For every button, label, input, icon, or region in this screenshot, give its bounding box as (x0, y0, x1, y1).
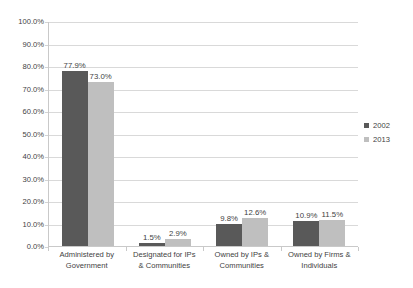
x-axis-category-line: Communities (204, 261, 280, 272)
bar-slot: 2.9% (165, 22, 191, 246)
y-axis-tick-label: 50.0% (0, 131, 44, 139)
x-axis-category-line: & Communities (127, 261, 203, 272)
x-axis-category-label: Owned by Firms &Individuals (281, 250, 359, 282)
x-axis-category-line: Administered by (49, 250, 125, 261)
bar-slot: 77.9% (62, 22, 88, 246)
bar-value-label: 12.6% (244, 208, 266, 217)
bar-value-label: 10.9% (295, 211, 317, 220)
bar-value-label: 77.9% (64, 61, 86, 70)
bar-value-label: 2.9% (169, 229, 187, 238)
legend-swatch-icon (364, 123, 369, 128)
bar-chart: 100.0%90.0%80.0%70.0%60.0%50.0%40.0%30.0… (0, 0, 413, 288)
bar-group: 77.9%73.0% (49, 22, 126, 246)
bar-group: 10.9%11.5% (281, 22, 358, 246)
y-axis-tick-label: 60.0% (0, 108, 44, 116)
x-axis-category-label: Administered byGovernment (48, 250, 126, 282)
x-axis-category-label: Designated for IPs& Communities (126, 250, 204, 282)
y-axis-tick-label: 40.0% (0, 153, 44, 161)
y-axis-tick-label: 0.0% (0, 243, 44, 251)
plot-area: 77.9%73.0%1.5%2.9%9.8%12.6%10.9%11.5% (48, 22, 358, 247)
bar-value-label: 11.5% (322, 210, 344, 219)
x-axis-category-line: Owned by IPs & (204, 250, 280, 261)
y-axis-tick-label: 80.0% (0, 63, 44, 71)
bar-slot: 11.5% (319, 22, 345, 246)
y-axis-tick-label: 70.0% (0, 86, 44, 94)
bar-slot: 10.9% (293, 22, 319, 246)
bar-group: 1.5%2.9% (126, 22, 203, 246)
y-axis-tick-label: 20.0% (0, 198, 44, 206)
legend-item-2002[interactable]: 2002 (364, 118, 413, 132)
bar[interactable] (293, 221, 319, 246)
x-axis-category-label: Owned by IPs &Communities (203, 250, 281, 282)
bar[interactable] (62, 71, 88, 246)
bar[interactable] (88, 82, 114, 246)
legend: 20022013 (364, 118, 413, 146)
legend-label: 2002 (373, 121, 390, 130)
bar-value-label: 73.0% (90, 72, 112, 81)
legend-swatch-icon (364, 137, 369, 142)
bar-group: 9.8%12.6% (204, 22, 281, 246)
bar-slot: 1.5% (139, 22, 165, 246)
x-axis-tick-mark (358, 247, 359, 251)
legend-label: 2013 (373, 135, 390, 144)
bar-slot: 12.6% (242, 22, 268, 246)
bar-value-label: 9.8% (220, 214, 238, 223)
y-axis-tick-label: 30.0% (0, 176, 44, 184)
y-axis: 100.0%90.0%80.0%70.0%60.0%50.0%40.0%30.0… (0, 22, 44, 247)
bar-groups: 77.9%73.0%1.5%2.9%9.8%12.6%10.9%11.5% (49, 22, 358, 246)
y-axis-tick-label: 90.0% (0, 41, 44, 49)
bar[interactable] (319, 220, 345, 246)
bar[interactable] (139, 243, 165, 246)
y-axis-tick-label: 100.0% (0, 18, 44, 26)
x-axis-category-line: Individuals (282, 261, 358, 272)
y-axis-tick-label: 10.0% (0, 221, 44, 229)
x-axis: Administered byGovernmentDesignated for … (48, 250, 358, 282)
bar[interactable] (242, 218, 268, 246)
bar-value-label: 1.5% (143, 233, 161, 242)
x-axis-category-line: Designated for IPs (127, 250, 203, 261)
x-axis-category-line: Owned by Firms & (282, 250, 358, 261)
bar[interactable] (216, 224, 242, 246)
legend-item-2013[interactable]: 2013 (364, 132, 413, 146)
bar-slot: 9.8% (216, 22, 242, 246)
bar-slot: 73.0% (88, 22, 114, 246)
bar[interactable] (165, 239, 191, 246)
x-axis-category-line: Government (49, 261, 125, 272)
